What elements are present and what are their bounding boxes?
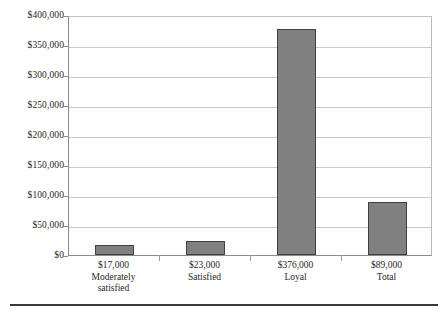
- bar-satisfied: [186, 241, 225, 255]
- bar-moderately-satisfied: [95, 245, 134, 255]
- bar-series: [69, 17, 431, 255]
- y-axis-tick-label: $0: [0, 250, 64, 260]
- y-axis-tick-label: $100,000: [0, 190, 64, 200]
- x-axis-category-label: $23,000Satisfied: [159, 260, 250, 306]
- plot-area: [68, 16, 432, 256]
- y-axis-tick-label: $50,000: [0, 220, 64, 230]
- y-axis-tick-label: $400,000: [0, 10, 64, 20]
- y-axis-tick-labels: $0$50,000$100,000$150,000$200,000$250,00…: [0, 0, 64, 314]
- bar-loyal: [277, 29, 316, 255]
- bar-category-name: Moderately: [68, 272, 159, 284]
- y-axis-tick-mark: [63, 256, 68, 257]
- bar-value-label: $89,000: [341, 260, 432, 272]
- x-axis-category-labels: $17,000Moderatelysatisfied$23,000Satisfi…: [68, 260, 432, 306]
- bottom-divider: [10, 304, 438, 306]
- bar-category-name: Total: [341, 272, 432, 284]
- x-axis-category-label: $17,000Moderatelysatisfied: [68, 260, 159, 306]
- bar-category-name: Loyal: [250, 272, 341, 284]
- x-axis-category-label: $376,000Loyal: [250, 260, 341, 306]
- bar-category-name: satisfied: [68, 283, 159, 295]
- bar-value-label: $17,000: [68, 260, 159, 272]
- y-axis-tick-label: $200,000: [0, 130, 64, 140]
- y-axis-tick-label: $350,000: [0, 40, 64, 50]
- bar-value-label: $23,000: [159, 260, 250, 272]
- bar-total: [368, 202, 407, 255]
- y-axis-tick-label: $300,000: [0, 70, 64, 80]
- y-axis-tick-label: $250,000: [0, 100, 64, 110]
- x-axis-category-label: $89,000Total: [341, 260, 432, 306]
- bar-category-name: Satisfied: [159, 272, 250, 284]
- bar-chart-figure: $0$50,000$100,000$150,000$200,000$250,00…: [0, 0, 446, 314]
- bar-value-label: $376,000: [250, 260, 341, 272]
- y-axis-tick-label: $150,000: [0, 160, 64, 170]
